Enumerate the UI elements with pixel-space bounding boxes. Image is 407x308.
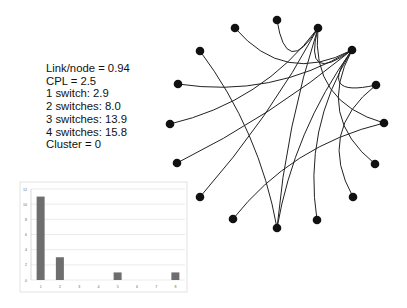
network-edge [200, 28, 318, 197]
network-node [273, 224, 282, 233]
network-node [380, 119, 389, 128]
stat-4-switches: 4 switches: 15.8 [46, 126, 130, 139]
stat-2-switches: 2 switches: 8.0 [46, 100, 130, 113]
network-node [166, 120, 175, 129]
network-edge [235, 28, 352, 64]
stat-3-switches: 3 switches: 13.9 [46, 113, 130, 126]
stat-cluster: Cluster = 0 [46, 138, 130, 151]
network-edge [317, 28, 384, 123]
network-node [349, 193, 358, 202]
network-node [229, 215, 238, 224]
network-node [372, 81, 381, 90]
network-edge [200, 51, 277, 228]
stats-panel: Link/node = 0.94 CPL = 2.5 1 switch: 2.9… [46, 62, 130, 151]
network-node [196, 47, 205, 56]
network-edge [233, 123, 384, 219]
network-edge [339, 85, 376, 197]
network-node [196, 193, 205, 202]
network-edge [338, 50, 375, 164]
network-node [348, 46, 357, 55]
network-node [231, 24, 240, 33]
network-node [371, 160, 380, 169]
stat-link-node: Link/node = 0.94 [46, 62, 130, 75]
network-node [313, 216, 322, 225]
network-diagram [0, 0, 407, 308]
network-node [173, 159, 182, 168]
network-node [314, 24, 323, 33]
network-node [273, 16, 282, 25]
network-node [174, 80, 183, 89]
stat-1-switch: 1 switch: 2.9 [46, 87, 130, 100]
stat-cpl: CPL = 2.5 [46, 75, 130, 88]
